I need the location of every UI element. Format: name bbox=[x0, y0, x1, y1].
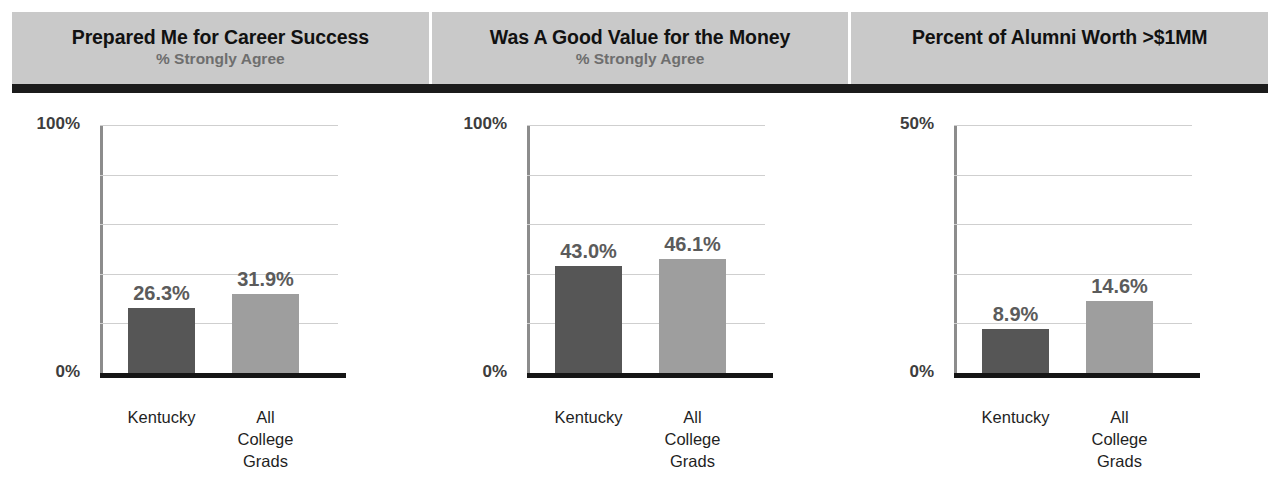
category-line: College bbox=[215, 429, 316, 451]
y-tick-label-max: 100% bbox=[37, 114, 90, 134]
charts-row: 100% 0% 26.3% 31.9% Kentucky All College… bbox=[0, 100, 1281, 470]
category-label-all-college-grads: All College Grads bbox=[1069, 407, 1170, 472]
gridline bbox=[954, 224, 1192, 225]
plot-area: 100% 0% 26.3% 31.9% Kentucky All College… bbox=[100, 125, 338, 373]
category-line: College bbox=[642, 429, 743, 451]
y-tick-label-zero: 0% bbox=[909, 362, 944, 382]
y-tick-label-max: 100% bbox=[464, 114, 517, 134]
category-label-kentucky: Kentucky bbox=[538, 407, 639, 429]
x-axis-baseline bbox=[100, 373, 346, 378]
panel-title: Percent of Alumni Worth >$1MM bbox=[912, 26, 1208, 48]
bar-value-kentucky: 43.0% bbox=[545, 240, 632, 263]
x-axis-baseline bbox=[527, 373, 773, 378]
y-axis-line bbox=[100, 125, 103, 373]
gridline bbox=[100, 224, 338, 225]
gridline bbox=[954, 175, 1192, 176]
chart-career-success: 100% 0% 26.3% 31.9% Kentucky All College… bbox=[0, 100, 427, 470]
gridline bbox=[527, 175, 765, 176]
gridline bbox=[527, 224, 765, 225]
bar-value-kentucky: 8.9% bbox=[972, 303, 1059, 326]
bar-value-all-college-grads: 31.9% bbox=[222, 268, 309, 291]
header-panel-career-success: Prepared Me for Career Success % Strongl… bbox=[12, 12, 429, 84]
plot-area: 50% 0% 8.9% 14.6% Kentucky All College G… bbox=[954, 125, 1192, 373]
category-line: Kentucky bbox=[111, 407, 212, 429]
header-panel-alumni-worth: Percent of Alumni Worth >$1MM bbox=[848, 12, 1268, 84]
header-divider-rule bbox=[12, 84, 1268, 93]
category-label-kentucky: Kentucky bbox=[111, 407, 212, 429]
plot-area: 100% 0% 43.0% 46.1% Kentucky All College… bbox=[527, 125, 765, 373]
panel-subtitle: % Strongly Agree bbox=[576, 49, 705, 68]
category-line: All bbox=[1069, 407, 1170, 429]
category-label-all-college-grads: All College Grads bbox=[642, 407, 743, 472]
gridline bbox=[527, 125, 765, 126]
bar-all-college-grads bbox=[659, 259, 726, 373]
chart-alumni-worth: 50% 0% 8.9% 14.6% Kentucky All College G… bbox=[854, 100, 1281, 470]
category-label-kentucky: Kentucky bbox=[965, 407, 1066, 429]
category-line: Grads bbox=[215, 451, 316, 473]
category-label-all-college-grads: All College Grads bbox=[215, 407, 316, 472]
panel-subtitle: % Strongly Agree bbox=[156, 49, 285, 68]
header-band: Prepared Me for Career Success % Strongl… bbox=[12, 12, 1268, 84]
bar-kentucky bbox=[128, 308, 195, 373]
bar-all-college-grads bbox=[1086, 301, 1153, 373]
y-tick-label-zero: 0% bbox=[482, 362, 517, 382]
bar-kentucky bbox=[555, 266, 622, 373]
y-tick-label-zero: 0% bbox=[55, 362, 90, 382]
category-line: All bbox=[642, 407, 743, 429]
y-axis-line bbox=[954, 125, 957, 373]
bar-all-college-grads bbox=[232, 294, 299, 373]
y-axis-line bbox=[527, 125, 530, 373]
category-line: Kentucky bbox=[538, 407, 639, 429]
bar-value-all-college-grads: 46.1% bbox=[649, 233, 736, 256]
x-axis-baseline bbox=[954, 373, 1200, 378]
gridline bbox=[954, 125, 1192, 126]
category-line: College bbox=[1069, 429, 1170, 451]
bar-value-kentucky: 26.3% bbox=[118, 282, 205, 305]
y-tick-label-max: 50% bbox=[900, 114, 944, 134]
header-panel-good-value: Was A Good Value for the Money % Strongl… bbox=[429, 12, 849, 84]
chart-good-value: 100% 0% 43.0% 46.1% Kentucky All College… bbox=[427, 100, 854, 470]
gridline bbox=[100, 175, 338, 176]
gridline bbox=[100, 125, 338, 126]
bar-kentucky bbox=[982, 329, 1049, 373]
category-line: Grads bbox=[1069, 451, 1170, 473]
panel-title: Was A Good Value for the Money bbox=[490, 26, 790, 48]
category-line: All bbox=[215, 407, 316, 429]
category-line: Grads bbox=[642, 451, 743, 473]
category-line: Kentucky bbox=[965, 407, 1066, 429]
panel-title: Prepared Me for Career Success bbox=[72, 26, 369, 48]
bar-value-all-college-grads: 14.6% bbox=[1076, 275, 1163, 298]
